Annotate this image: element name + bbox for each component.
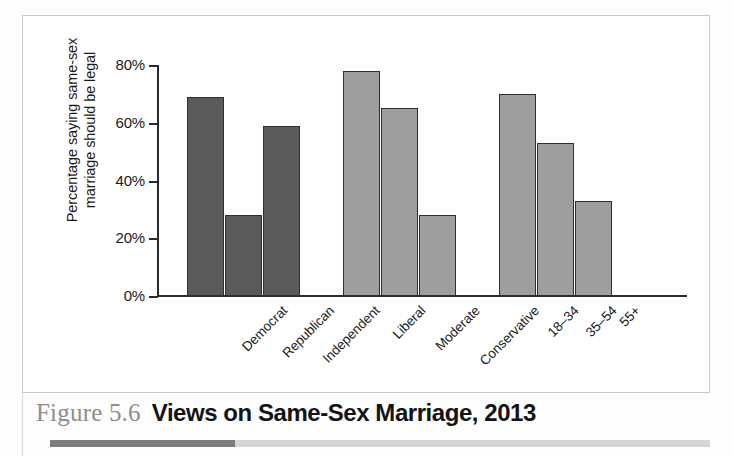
caption-underline-light [235,440,710,447]
x-axis-label: 55+ [616,303,643,330]
y-axis-tick-label: 20% [85,229,145,246]
plot-area: 0%20%40%60%80% DemocratRepublicanIndepen… [23,16,711,394]
bar [499,94,536,296]
y-axis-tick [149,296,158,298]
x-axis-label: Liberal [389,303,428,342]
bar [381,108,418,296]
bar [575,201,612,296]
y-axis-tick [149,181,158,183]
page-gutter-rule [22,393,23,456]
y-axis-tick-label: 40% [85,172,145,189]
y-axis-tick-label: 60% [85,114,145,131]
bar [343,71,380,296]
bar [187,97,224,296]
bar [419,215,456,296]
caption-underline-dark [50,440,235,447]
y-axis-tick [149,238,158,240]
x-axis-label: 35–54 [582,303,619,340]
figure-title: Views on Same-Sex Marriage, 2013 [152,399,536,427]
bar [537,143,574,296]
y-axis-tick-label: 0% [85,287,145,304]
figure-caption: Figure 5.6 Views on Same-Sex Marriage, 2… [36,399,708,427]
y-axis-tick [149,65,158,67]
figure-number: Figure 5.6 [36,399,141,427]
bar [263,126,300,296]
figure-container: Percentage saying same-sex marriage shou… [0,0,734,456]
y-axis-tick-label: 80% [85,56,145,73]
bar [225,215,262,296]
x-axis-label: Moderate [432,303,482,353]
x-axis-label: Conservative [476,303,541,368]
x-axis-label: 18–34 [544,303,581,340]
y-axis-tick [149,123,158,125]
caption-underline [50,440,710,447]
chart-frame: Percentage saying same-sex marriage shou… [22,15,710,393]
